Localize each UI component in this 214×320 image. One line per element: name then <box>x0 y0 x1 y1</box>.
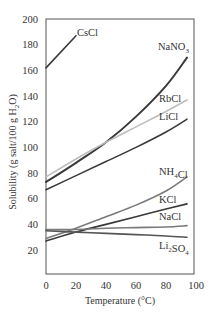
y-tick-label: 80 <box>28 168 39 179</box>
x-tick-label: 100 <box>188 280 204 291</box>
series-line-licl <box>46 119 187 190</box>
x-tick-label: 0 <box>43 280 48 291</box>
y-tick-label: 140 <box>22 91 38 102</box>
x-axis-label: Temperature (°C) <box>85 295 155 307</box>
y-axis-label: Solubility (g salt/100 g H2O) <box>7 94 21 210</box>
series-label-cscl: CsCl <box>77 27 98 38</box>
y-axis-ticks: 20406080100120140160180200 <box>22 14 38 256</box>
series-label-li2so4: Li2SO4 <box>159 240 189 257</box>
series-label-licl: LiCl <box>159 111 178 122</box>
y-tick-label: 100 <box>22 142 38 153</box>
x-tick-label: 60 <box>131 280 142 291</box>
series-line-nacl <box>46 226 187 230</box>
y-tick-label: 120 <box>22 116 38 127</box>
y-tick-label: 20 <box>28 245 39 256</box>
series-labels: CsClNaNO3RbClLiClNH4ClKClNaClLi2SO4 <box>77 27 189 257</box>
y-tick-label: 200 <box>22 14 38 25</box>
solubility-chart: 20406080100120140160180200 020406080100 … <box>0 0 214 320</box>
series-line-cscl <box>46 36 76 68</box>
svg-text:Solubility (g salt/100 g H2O): Solubility (g salt/100 g H2O) <box>7 94 21 210</box>
x-tick-label: 20 <box>71 280 82 291</box>
series-label-kcl: KCl <box>159 194 177 205</box>
x-tick-label: 40 <box>101 280 112 291</box>
series-label-nacl: NaCl <box>159 211 181 222</box>
y-tick-label: 180 <box>22 39 38 50</box>
series-label-nh4cl: NH4Cl <box>159 166 188 180</box>
y-tick-label: 60 <box>28 193 39 204</box>
series-label-rbcl: RbCl <box>159 93 181 104</box>
x-axis-ticks: 020406080100 <box>43 280 204 291</box>
y-tick-label: 160 <box>22 65 38 76</box>
series-label-nano3: NaNO3 <box>158 41 189 55</box>
x-tick-label: 80 <box>161 280 172 291</box>
y-tick-label: 40 <box>28 219 39 230</box>
